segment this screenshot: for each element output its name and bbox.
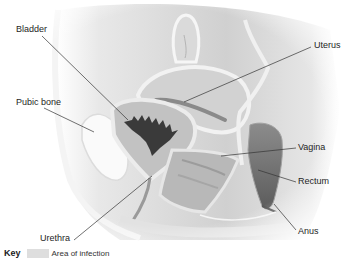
- label-urethra: Urethra: [40, 233, 70, 243]
- label-rectum: Rectum: [298, 176, 329, 186]
- label-pubic-bone: Pubic bone: [16, 97, 61, 107]
- legend-description: Area of infection: [52, 249, 110, 258]
- label-anus: Anus: [298, 226, 319, 236]
- legend-title: Key: [4, 248, 21, 258]
- legend-swatch-infection: [27, 249, 49, 258]
- legend: Key Area of infection: [4, 247, 109, 259]
- label-uterus: Uterus: [314, 40, 341, 50]
- label-bladder: Bladder: [16, 24, 47, 34]
- pelvic-anatomy-illustration: [0, 0, 359, 261]
- label-vagina: Vagina: [298, 142, 325, 152]
